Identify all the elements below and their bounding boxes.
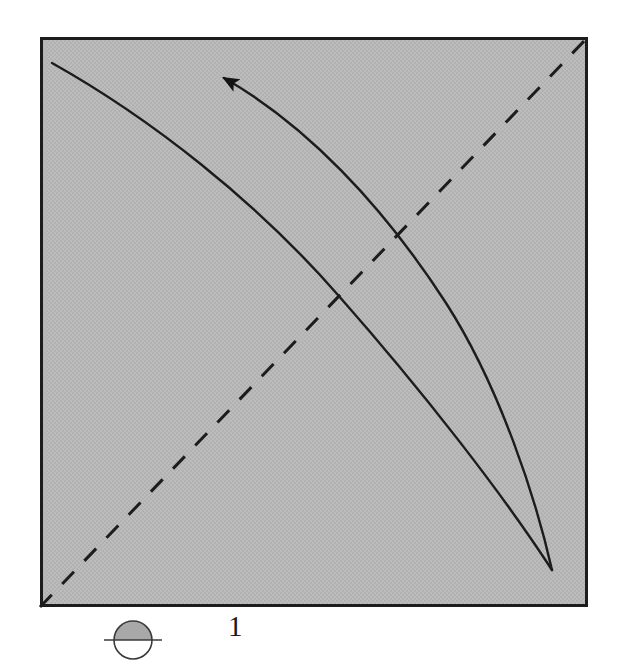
half-shaded-circle-icon: [104, 621, 162, 659]
circle-lower-half-fill: [114, 640, 152, 659]
figure-canvas: [0, 0, 629, 670]
figure-container: 1: [0, 0, 629, 670]
circle-upper-half-fill: [114, 621, 152, 640]
figure-label: 1: [228, 612, 243, 641]
